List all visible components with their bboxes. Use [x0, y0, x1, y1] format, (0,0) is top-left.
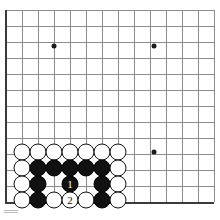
stone-black-r4c2[interactable] — [30, 192, 47, 209]
grid-line-horizontal-5 — [6, 90, 214, 91]
grid-line-horizontal-6 — [6, 106, 214, 107]
stone-white-r1c7[interactable] — [110, 144, 127, 161]
stone-black-move-1[interactable]: 1 — [62, 176, 79, 193]
star-point-lower-right — [152, 150, 157, 155]
board-edge-left — [5, 10, 7, 204]
stone-black-r2c6[interactable] — [94, 160, 111, 177]
grid-line-horizontal-3 — [6, 58, 214, 59]
stone-black-r4c6[interactable] — [94, 192, 111, 209]
stone-white-r4c7[interactable] — [110, 192, 127, 209]
stone-white-r1c6[interactable] — [94, 144, 111, 161]
stone-black-r2c5[interactable] — [78, 160, 95, 177]
grid-line-horizontal-0 — [6, 10, 214, 11]
stone-black-r2c2[interactable] — [30, 160, 47, 177]
stone-black-r3c2[interactable] — [30, 176, 47, 193]
star-point-upper-right — [152, 44, 157, 49]
stone-move-number: 1 — [67, 179, 73, 190]
stone-white-r1c4[interactable] — [62, 144, 79, 161]
stone-move-number: 2 — [67, 195, 73, 206]
grid-line-horizontal-8 — [6, 138, 214, 139]
stone-white-r4c3[interactable] — [46, 192, 63, 209]
stone-white-r1c1[interactable] — [14, 144, 31, 161]
stone-white-r2c1[interactable] — [14, 160, 31, 177]
grid-line-horizontal-1 — [6, 26, 214, 27]
stone-white-move-2[interactable]: 2 — [62, 192, 79, 209]
grid-line-vertical-13 — [214, 10, 215, 202]
stone-white-r4c1[interactable] — [14, 192, 31, 209]
corner-artifact-mark — [4, 210, 18, 213]
stone-white-r3c7[interactable] — [110, 176, 127, 193]
grid-line-horizontal-7 — [6, 122, 214, 123]
stone-black-r3c6[interactable] — [94, 176, 111, 193]
stone-white-r3c1[interactable] — [14, 176, 31, 193]
stone-white-r1c3[interactable] — [46, 144, 63, 161]
stone-white-r2c7[interactable] — [110, 160, 127, 177]
grid-line-horizontal-2 — [6, 42, 214, 43]
stone-white-r1c5[interactable] — [78, 144, 95, 161]
grid-line-horizontal-4 — [6, 74, 214, 75]
stone-white-r4c5[interactable] — [78, 192, 95, 209]
stone-white-r1c2[interactable] — [30, 144, 47, 161]
stone-black-r2c3[interactable] — [46, 160, 63, 177]
go-board-diagram: 12 — [0, 0, 220, 220]
stone-black-r2c4[interactable] — [62, 160, 79, 177]
star-point-upper-left — [52, 44, 57, 49]
